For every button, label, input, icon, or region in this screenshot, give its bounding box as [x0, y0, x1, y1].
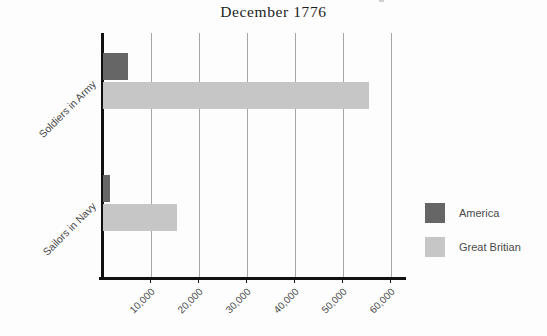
gridline — [391, 33, 392, 278]
gridline — [151, 33, 152, 278]
x-tick-mark — [198, 277, 199, 283]
x-tick-mark — [246, 277, 247, 283]
x-tick-mark — [294, 277, 295, 283]
crop-artifact-mark — [379, 0, 384, 2]
gridline — [343, 33, 344, 278]
category-label-sailors-in-navy: Sailors in Navy — [19, 200, 98, 279]
legend-item-great-britian[interactable]: Great Britian — [425, 230, 521, 264]
gridline — [295, 33, 296, 278]
legend-swatch-america — [425, 203, 445, 223]
chart-title: December 1776 — [0, 3, 547, 21]
legend: America Great Britian — [425, 196, 521, 264]
x-tick-mark — [390, 277, 391, 283]
legend-label-america: America — [459, 207, 499, 219]
bar-great-britian-sailors-in-navy[interactable] — [103, 204, 177, 231]
bar-great-britian-soldiers-in-army[interactable] — [103, 82, 369, 109]
gridline — [247, 33, 248, 278]
plot-area — [103, 33, 405, 278]
x-tick-mark — [150, 277, 151, 283]
legend-swatch-great-britian — [425, 237, 445, 257]
gridline — [199, 33, 200, 278]
x-tick-mark — [342, 277, 343, 283]
bar-america-sailors-in-navy[interactable] — [103, 175, 110, 202]
bar-chart: December 1776 Soldiers in Army Sailors i… — [0, 0, 547, 336]
legend-label-great-britian: Great Britian — [459, 241, 521, 253]
x-axis-line — [99, 277, 406, 280]
legend-item-america[interactable]: America — [425, 196, 521, 230]
bar-america-soldiers-in-army[interactable] — [103, 53, 128, 80]
category-label-soldiers-in-army: Soldiers in Army — [19, 78, 98, 157]
x-tick-label: 10,000 — [99, 286, 156, 336]
